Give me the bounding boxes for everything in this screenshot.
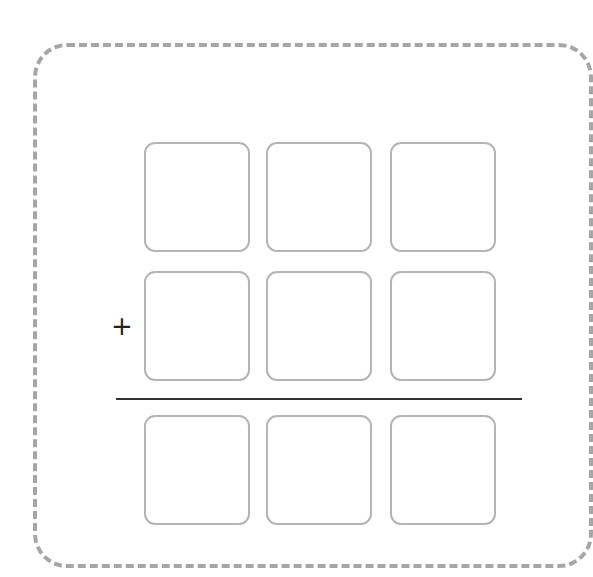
- digit-box-sum-c3[interactable]: [390, 415, 496, 525]
- digit-box-r2-c2[interactable]: [266, 271, 372, 381]
- digit-box-r2-c3[interactable]: [390, 271, 496, 381]
- digit-box-r2-c1[interactable]: [144, 271, 250, 381]
- sum-divider-line: [116, 398, 522, 400]
- plus-operator: +: [111, 313, 133, 339]
- digit-box-r1-c1[interactable]: [144, 142, 250, 252]
- digit-box-r1-c2[interactable]: [266, 142, 372, 252]
- digit-box-sum-c2[interactable]: [266, 415, 372, 525]
- digit-box-r1-c3[interactable]: [390, 142, 496, 252]
- digit-box-sum-c1[interactable]: [144, 415, 250, 525]
